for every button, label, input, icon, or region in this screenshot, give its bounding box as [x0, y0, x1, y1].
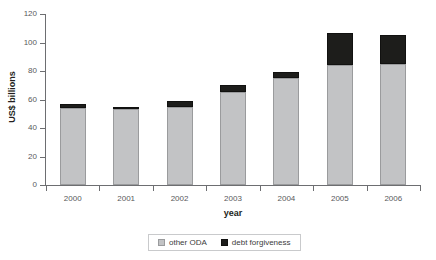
bar-segment-debt-forgiveness [113, 107, 139, 110]
y-tick-label: 20 [7, 153, 37, 161]
x-tick [153, 186, 154, 191]
bar-segment-debt-forgiveness [220, 85, 246, 92]
bar-2000 [60, 104, 86, 185]
y-tick [40, 43, 45, 44]
x-tick [420, 186, 421, 191]
y-tick-label: 120 [7, 10, 37, 18]
legend-label: other ODA [169, 238, 207, 247]
bar-segment-debt-forgiveness [167, 101, 193, 107]
bar-segment-other-oda [220, 92, 246, 185]
x-tick [367, 186, 368, 191]
x-axis-title: year [46, 208, 420, 218]
bar-2005 [327, 33, 353, 185]
legend-swatch-oda [158, 239, 165, 246]
legend-swatch-debt [221, 239, 228, 246]
x-tick-label: 2005 [313, 194, 366, 203]
x-tick-label: 2001 [99, 194, 152, 203]
bar-segment-other-oda [113, 109, 139, 185]
bar-segment-debt-forgiveness [60, 104, 86, 108]
plot-area [46, 14, 420, 185]
x-tick [313, 186, 314, 191]
y-tick [40, 71, 45, 72]
x-tick-label: 2003 [206, 194, 259, 203]
y-tick [40, 14, 45, 15]
x-tick [99, 186, 100, 191]
y-tick [40, 185, 45, 186]
bar-segment-debt-forgiveness [327, 33, 353, 66]
bar-2006 [380, 35, 406, 185]
bar-2003 [220, 85, 246, 185]
y-axis-title: US$ billions [7, 52, 17, 142]
y-tick [40, 128, 45, 129]
bar-segment-other-oda [167, 107, 193, 185]
bar-2002 [167, 101, 193, 185]
y-tick [40, 157, 45, 158]
chart-legend: other ODAdebt forgiveness [148, 234, 301, 251]
stacked-bar-chart: 020406080100120 200020012002200320042005… [0, 0, 436, 260]
y-tick [40, 100, 45, 101]
bar-segment-other-oda [60, 108, 86, 185]
x-tick [206, 186, 207, 191]
x-tick-label: 2000 [46, 194, 99, 203]
bar-segment-other-oda [327, 65, 353, 185]
bar-segment-debt-forgiveness [380, 35, 406, 64]
legend-label: debt forgiveness [232, 238, 291, 247]
x-axis-line [45, 185, 421, 186]
y-tick-label: 100 [7, 39, 37, 47]
x-tick-label: 2002 [153, 194, 206, 203]
bar-segment-other-oda [380, 64, 406, 185]
bar-2004 [273, 72, 299, 185]
x-tick-label: 2006 [367, 194, 420, 203]
legend-item-debt: debt forgiveness [221, 238, 291, 247]
bar-2001 [113, 107, 139, 185]
bar-segment-debt-forgiveness [273, 72, 299, 78]
y-tick-label: 0 [7, 181, 37, 189]
legend-item-oda: other ODA [158, 238, 207, 247]
x-tick [46, 186, 47, 191]
x-tick [260, 186, 261, 191]
x-tick-label: 2004 [260, 194, 313, 203]
bar-segment-other-oda [273, 78, 299, 185]
